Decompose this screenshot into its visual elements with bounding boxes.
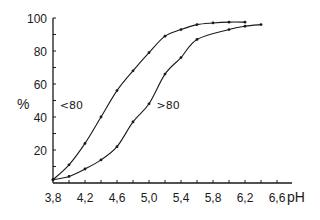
x-axis: 3,84,24,65,05,45,86,26,6	[45, 180, 292, 205]
data-point-marker	[164, 35, 167, 38]
data-point-marker	[100, 159, 103, 162]
data-point-marker	[68, 163, 71, 166]
data-point-marker	[196, 38, 199, 41]
data-point-marker	[164, 73, 167, 76]
x-tick-label: 3,8	[45, 191, 62, 205]
data-point-marker	[228, 21, 231, 24]
data-point-marker	[244, 25, 247, 28]
y-tick-label: 80	[34, 45, 48, 59]
data-point-marker	[132, 121, 135, 124]
y-tick-label: 20	[34, 144, 48, 158]
y-tick-label: 40	[34, 111, 48, 125]
data-point-marker	[260, 23, 263, 26]
y-tick-label: 100	[27, 12, 47, 26]
plot-series: <80>80	[52, 21, 263, 181]
data-point-marker	[68, 175, 71, 178]
data-point-marker	[212, 22, 215, 25]
data-point-marker	[228, 28, 231, 31]
x-tick-label: 6,2	[237, 191, 254, 205]
y-axis-title: %	[17, 96, 29, 112]
data-point-marker	[132, 69, 135, 72]
x-axis-title: pH	[287, 189, 305, 205]
y-axis: 20406080100	[27, 12, 56, 183]
x-tick-label: 4,2	[77, 191, 94, 205]
data-point-marker	[52, 178, 55, 181]
data-point-marker	[84, 168, 87, 171]
data-point-marker	[148, 51, 151, 54]
series-label-2: >80	[157, 99, 180, 112]
data-point-marker	[180, 56, 183, 59]
series-label-1: <80	[60, 99, 83, 112]
data-point-marker	[84, 142, 87, 145]
y-tick-label: 60	[34, 78, 48, 92]
data-point-marker	[100, 116, 103, 119]
x-tick-label: 5,8	[205, 191, 222, 205]
data-point-marker	[180, 28, 183, 31]
data-point-marker	[148, 102, 151, 105]
data-point-marker	[244, 21, 247, 24]
data-point-marker	[116, 89, 119, 92]
ph-percent-chart: 20406080100 3,84,24,65,05,45,86,26,6 <80…	[0, 0, 320, 220]
x-tick-label: 4,6	[109, 191, 126, 205]
data-point-marker	[196, 23, 199, 26]
x-tick-label: 5,4	[173, 191, 190, 205]
x-tick-label: 5,0	[141, 191, 158, 205]
data-point-marker	[116, 145, 119, 148]
x-tick-label: 6,6	[269, 191, 286, 205]
